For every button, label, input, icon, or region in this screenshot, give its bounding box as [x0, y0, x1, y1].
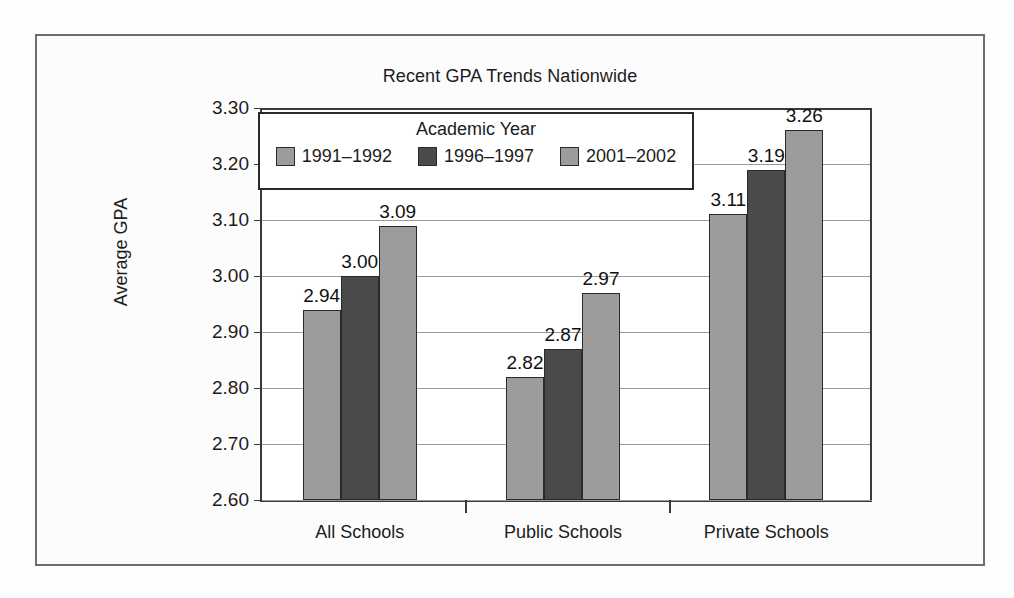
y-axis-tick-label: 3.10 [212, 209, 249, 231]
y-axis-tick-label: 3.30 [212, 97, 249, 119]
scan-artifact-text [30, 0, 270, 18]
legend-label: 1996–1997 [444, 146, 534, 167]
bar[interactable]: 3.00 [341, 276, 379, 500]
bar-value-label: 2.87 [545, 324, 582, 346]
bar[interactable]: 3.11 [709, 214, 747, 500]
bar-value-label: 3.11 [711, 189, 747, 211]
y-axis-tick-label: 3.00 [212, 265, 249, 287]
legend-label: 1991–1992 [302, 146, 392, 167]
y-axis-tick-label: 2.90 [212, 321, 249, 343]
y-axis-tick-label: 3.20 [212, 153, 249, 175]
bar[interactable]: 2.87 [544, 349, 582, 500]
y-axis-tick [254, 444, 262, 445]
legend-swatch-icon [560, 147, 579, 166]
plot-right-border [870, 108, 872, 500]
x-axis-category-label: Public Schools [504, 522, 622, 543]
bar-value-label: 2.97 [583, 268, 620, 290]
bar[interactable]: 3.19 [747, 170, 785, 500]
plot-top-border [262, 108, 872, 110]
y-axis-tick [254, 332, 262, 333]
x-axis-category-label: Private Schools [704, 522, 829, 543]
x-axis-group-separator [465, 500, 467, 513]
bar-value-label: 3.19 [748, 145, 785, 167]
y-axis-tick-label: 2.70 [212, 433, 249, 455]
bar-value-label: 3.09 [379, 201, 416, 223]
y-axis-tick [254, 108, 262, 109]
gridline [262, 500, 872, 501]
bar[interactable]: 3.09 [379, 226, 417, 500]
legend-title: Academic Year [260, 119, 692, 140]
bar[interactable]: 2.94 [303, 310, 341, 500]
legend-item[interactable]: 2001–2002 [560, 146, 676, 167]
bar-value-label: 2.82 [507, 352, 544, 374]
bar-value-label: 3.00 [341, 251, 378, 273]
bar[interactable]: 2.97 [582, 293, 620, 500]
bar[interactable]: 3.26 [785, 130, 823, 500]
y-axis-title: Average GPA [111, 152, 132, 352]
y-axis-tick [254, 388, 262, 389]
chart-title: Recent GPA Trends Nationwide [37, 66, 983, 87]
x-axis-category-label: All Schools [315, 522, 404, 543]
x-axis-group-separator [669, 500, 671, 513]
chart-legend: Academic Year 1991–19921996–19972001–200… [258, 112, 694, 190]
y-axis-tick [254, 276, 262, 277]
legend-item[interactable]: 1991–1992 [276, 146, 392, 167]
y-axis-tick-label: 2.60 [212, 489, 249, 511]
legend-label: 2001–2002 [586, 146, 676, 167]
y-axis-tick-label: 2.80 [212, 377, 249, 399]
y-axis-tick [254, 500, 262, 501]
legend-swatch-icon [276, 147, 295, 166]
figure-frame: Recent GPA Trends Nationwide Average GPA… [35, 34, 985, 566]
legend-item[interactable]: 1996–1997 [418, 146, 534, 167]
legend-items: 1991–19921996–19972001–2002 [260, 146, 692, 167]
bar[interactable]: 2.82 [506, 377, 544, 500]
bar-value-label: 2.94 [303, 285, 340, 307]
y-axis-tick [254, 220, 262, 221]
bar-value-label: 3.26 [786, 105, 823, 127]
legend-swatch-icon [418, 147, 437, 166]
